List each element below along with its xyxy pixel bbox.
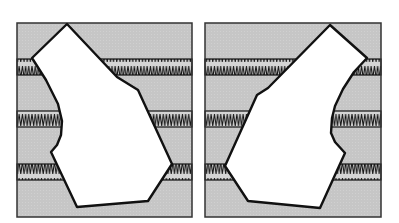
panel-left — [17, 23, 192, 217]
diagram-figure — [0, 0, 399, 223]
panel-right — [205, 23, 381, 217]
